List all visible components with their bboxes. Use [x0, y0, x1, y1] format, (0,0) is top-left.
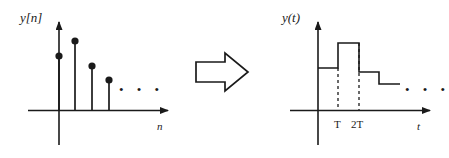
stem-marker-3	[105, 76, 112, 83]
stem-marker-2	[88, 62, 95, 69]
right-ellipsis: • • •	[405, 83, 449, 96]
figure-canvas: y[n] n • • • y(t) t T 2T • • •	[0, 0, 449, 158]
right-x-axis-label: t	[417, 121, 420, 132]
tick-label-2T: 2T	[351, 119, 363, 130]
arrow-shape	[196, 53, 248, 91]
left-y-axis-label: y[n]	[20, 11, 42, 24]
stem-marker-1	[71, 37, 78, 44]
tick-label-T: T	[334, 119, 341, 130]
transform-arrow-icon	[196, 53, 248, 91]
stem-marker-0	[55, 52, 62, 59]
left-x-axis-label: n	[157, 121, 163, 132]
figure-svg	[0, 0, 449, 158]
stem-group	[55, 37, 112, 110]
right-y-axis-label: y(t)	[282, 11, 300, 24]
left-ellipsis: • • •	[119, 83, 164, 96]
